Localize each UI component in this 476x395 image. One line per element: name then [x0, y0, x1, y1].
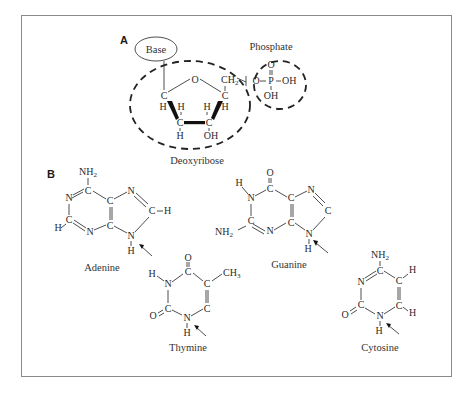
- deoxyribose-label: Deoxyribose: [170, 155, 224, 166]
- svg-text:C: C: [165, 303, 172, 314]
- phosphate-o-link: O: [252, 75, 259, 86]
- thymine-ch3: CH3: [223, 267, 241, 280]
- svg-text:C: C: [325, 205, 332, 216]
- thymine-structure: O C H N C CH3 C N C O H Thymine: [148, 252, 241, 353]
- svg-text:C: C: [149, 205, 156, 216]
- svg-text:C: C: [204, 278, 211, 289]
- svg-text:H: H: [54, 222, 61, 233]
- svg-text:C: C: [185, 266, 192, 277]
- svg-text:C: C: [396, 275, 403, 286]
- h-c2-top: H: [177, 101, 184, 112]
- svg-text:N: N: [86, 226, 93, 237]
- svg-text:H: H: [164, 205, 171, 216]
- ring-oxygen: O: [191, 74, 198, 85]
- svg-text:O: O: [266, 167, 273, 178]
- svg-text:C: C: [248, 215, 255, 226]
- carbon-3: C: [206, 117, 213, 128]
- svg-text:H: H: [409, 307, 416, 318]
- phosphate-o-top: O: [267, 59, 274, 70]
- deoxyribose-ring: O C C C C H H H H H OH CH2: [159, 74, 246, 141]
- svg-text:N: N: [305, 228, 312, 239]
- phosphate-label: Phosphate: [249, 41, 293, 52]
- phosphate-p: P: [268, 75, 274, 86]
- base-label: Base: [146, 44, 167, 55]
- svg-text:N: N: [164, 278, 171, 289]
- svg-text:O: O: [184, 252, 191, 263]
- h-c1: H: [159, 101, 166, 112]
- phosphate-oh-right: OH: [282, 75, 296, 86]
- h-c3: H: [203, 101, 210, 112]
- adenine-label: Adenine: [84, 262, 120, 273]
- svg-text:C: C: [396, 300, 403, 311]
- svg-text:H: H: [127, 245, 134, 256]
- panel-a-label: A: [120, 34, 128, 46]
- carbon-4: C: [222, 90, 229, 101]
- h-c2-bottom: H: [176, 130, 183, 141]
- svg-text:C: C: [204, 303, 211, 314]
- ch2-group: CH2: [221, 74, 239, 87]
- svg-text:H: H: [183, 327, 190, 338]
- oh-c3: OH: [204, 130, 218, 141]
- svg-text:C: C: [267, 183, 274, 194]
- svg-text:N: N: [266, 225, 273, 236]
- svg-text:N: N: [247, 192, 254, 203]
- nucleotide-diagram: A Base Deoxyribose Phosphate O C C C C H…: [0, 0, 476, 395]
- guanine-structure: O C H N C N C C N H N C NH2 Guanine: [215, 167, 332, 270]
- svg-text:C: C: [85, 185, 92, 196]
- base-group: Base: [135, 37, 177, 90]
- svg-text:N: N: [357, 276, 364, 287]
- svg-text:C: C: [377, 265, 384, 276]
- svg-text:N: N: [127, 185, 134, 196]
- h-c4: H: [221, 101, 228, 112]
- svg-text:C: C: [107, 195, 114, 206]
- cytosine-label: Cytosine: [361, 342, 399, 353]
- thymine-label: Thymine: [169, 342, 207, 353]
- phosphate-group: O P O OH OH: [252, 59, 296, 101]
- guanine-nh2: NH2: [215, 226, 233, 239]
- svg-text:N: N: [127, 230, 134, 241]
- panel-b-label: B: [47, 168, 55, 180]
- svg-text:H: H: [409, 264, 416, 275]
- svg-text:C: C: [288, 192, 295, 203]
- svg-text:N: N: [376, 310, 383, 321]
- svg-text:H: H: [235, 177, 242, 188]
- phosphate-circle: [254, 61, 306, 109]
- cytosine-nh2: NH2: [371, 249, 389, 262]
- cytosine-structure: NH2 C N C H C H N C O H Cytosine: [341, 249, 416, 353]
- svg-text:H: H: [304, 243, 311, 254]
- svg-text:C: C: [358, 299, 365, 310]
- svg-text:C: C: [66, 214, 73, 225]
- carbon-1: C: [161, 90, 168, 101]
- adenine-structure: NH2 C N C N C H C N H C N H Adenine: [54, 166, 171, 273]
- svg-text:H: H: [148, 268, 155, 279]
- svg-text:N: N: [307, 184, 314, 195]
- adenine-nh2: NH2: [79, 166, 97, 179]
- svg-text:C: C: [107, 220, 114, 231]
- svg-text:O: O: [341, 309, 348, 320]
- guanine-label: Guanine: [271, 259, 307, 270]
- svg-text:H: H: [375, 325, 382, 336]
- svg-text:C: C: [288, 217, 295, 228]
- svg-text:O: O: [149, 310, 156, 321]
- phosphate-oh-bottom: OH: [264, 90, 278, 101]
- svg-text:N: N: [183, 312, 190, 323]
- svg-text:N: N: [65, 192, 72, 203]
